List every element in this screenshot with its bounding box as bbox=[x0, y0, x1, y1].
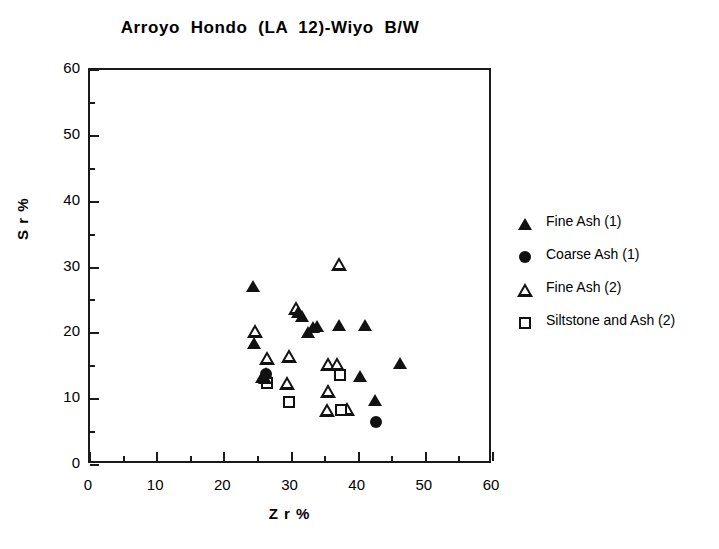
marker-triangle-open-icon bbox=[259, 351, 275, 365]
legend-item-2[interactable]: Fine Ash (2) bbox=[510, 274, 715, 307]
x-tick-minor bbox=[190, 456, 192, 461]
marker-triangle-filled-icon bbox=[332, 319, 346, 331]
legend-label: Siltstone and Ash (2) bbox=[546, 312, 675, 328]
y-tick-minor bbox=[90, 431, 95, 433]
marker-circle-filled-icon bbox=[519, 251, 531, 263]
legend-marker bbox=[516, 315, 534, 331]
page-title: Arroyo Hondo (LA 12)-Wiyo B/W bbox=[0, 18, 540, 38]
x-axis-title: Z r % bbox=[88, 505, 491, 522]
y-tick-label: 10 bbox=[32, 389, 80, 404]
x-tick-major bbox=[89, 452, 91, 461]
y-tick-major bbox=[90, 69, 99, 71]
y-tick-major bbox=[90, 398, 99, 400]
x-tick-label: 20 bbox=[202, 477, 242, 492]
y-tick-major bbox=[90, 135, 99, 137]
x-tick-label: 60 bbox=[471, 477, 511, 492]
marker-triangle-filled-icon bbox=[353, 370, 367, 382]
y-tick-minor bbox=[90, 168, 95, 170]
x-tick-label: 50 bbox=[404, 477, 444, 492]
x-tick-label: 30 bbox=[270, 477, 310, 492]
marker-circle-filled-icon bbox=[370, 416, 382, 428]
x-tick-minor bbox=[123, 456, 125, 461]
legend: Fine Ash (1)Coarse Ash (1)Fine Ash (2)Si… bbox=[510, 208, 715, 340]
legend-marker bbox=[516, 282, 534, 298]
marker-triangle-open-icon bbox=[517, 283, 533, 297]
legend-marker bbox=[516, 216, 534, 232]
x-tick-major bbox=[291, 452, 293, 461]
x-tick-minor bbox=[458, 456, 460, 461]
y-tick-minor bbox=[90, 234, 95, 236]
marker-triangle-filled-icon bbox=[295, 310, 309, 322]
y-tick-minor bbox=[90, 299, 95, 301]
x-tick-minor bbox=[257, 456, 259, 461]
legend-item-3[interactable]: Siltstone and Ash (2) bbox=[510, 307, 715, 340]
x-tick-label: 0 bbox=[68, 477, 108, 492]
y-tick-major bbox=[90, 332, 99, 334]
x-tick-label: 40 bbox=[337, 477, 377, 492]
x-tick-label: 10 bbox=[135, 477, 175, 492]
marker-triangle-filled-icon bbox=[518, 218, 532, 230]
x-tick-minor bbox=[324, 456, 326, 461]
marker-triangle-filled-icon bbox=[246, 280, 260, 292]
legend-label: Coarse Ash (1) bbox=[546, 246, 639, 262]
y-tick-minor bbox=[90, 102, 95, 104]
marker-triangle-filled-icon bbox=[393, 357, 407, 369]
x-tick-major bbox=[492, 452, 494, 461]
y-tick-label: 60 bbox=[32, 60, 80, 75]
marker-triangle-open-icon bbox=[279, 376, 295, 390]
marker-triangle-filled-icon bbox=[368, 394, 382, 406]
marker-square-open-icon bbox=[519, 317, 531, 329]
x-tick-major bbox=[223, 452, 225, 461]
legend-marker bbox=[516, 249, 534, 265]
marker-triangle-filled-icon bbox=[247, 337, 261, 349]
legend-label: Fine Ash (1) bbox=[546, 213, 621, 229]
legend-item-1[interactable]: Coarse Ash (1) bbox=[510, 241, 715, 274]
scatter-plot-figure: Arroyo Hondo (LA 12)-Wiyo B/W S r % Z r … bbox=[0, 0, 719, 549]
y-tick-minor bbox=[90, 365, 95, 367]
y-tick-major bbox=[90, 267, 99, 269]
y-tick-label: 0 bbox=[32, 455, 80, 470]
marker-square-open-icon bbox=[334, 369, 346, 381]
legend-item-0[interactable]: Fine Ash (1) bbox=[510, 208, 715, 241]
y-tick-label: 40 bbox=[32, 192, 80, 207]
marker-triangle-open-icon bbox=[320, 384, 336, 398]
marker-triangle-open-icon bbox=[281, 349, 297, 363]
marker-triangle-open-icon bbox=[331, 257, 347, 271]
marker-triangle-filled-icon bbox=[358, 319, 372, 331]
y-tick-major bbox=[90, 201, 99, 203]
marker-square-open-icon bbox=[335, 404, 347, 416]
y-axis-title: S r % bbox=[14, 197, 31, 240]
legend-label: Fine Ash (2) bbox=[546, 279, 621, 295]
y-tick-label: 20 bbox=[32, 323, 80, 338]
x-tick-major bbox=[358, 452, 360, 461]
y-tick-label: 50 bbox=[32, 126, 80, 141]
y-tick-label: 30 bbox=[32, 258, 80, 273]
x-tick-major bbox=[156, 452, 158, 461]
plot-area bbox=[88, 68, 491, 463]
x-tick-minor bbox=[391, 456, 393, 461]
marker-triangle-filled-icon bbox=[301, 326, 315, 338]
marker-triangle-open-icon bbox=[319, 403, 335, 417]
marker-square-open-icon bbox=[283, 396, 295, 408]
y-tick-major bbox=[90, 464, 99, 466]
x-tick-major bbox=[425, 452, 427, 461]
